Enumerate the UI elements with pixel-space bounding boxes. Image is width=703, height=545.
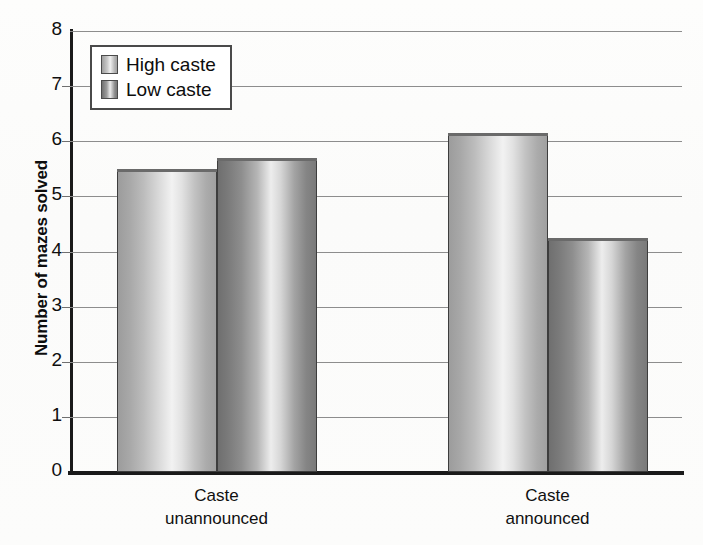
bar-top-edge [548,238,648,241]
y-axis-tick-label: 7 [26,73,62,95]
x-axis-category-label: Casteunannounced [107,484,327,530]
x-axis-category-line: Caste [438,484,658,507]
x-axis-category-line: unannounced [107,507,327,530]
gridline [70,141,682,142]
legend-label: Low caste [126,79,212,101]
bar [117,169,217,472]
bar [448,133,548,472]
y-axis-tick-label: 8 [26,18,62,40]
bar-top-edge [117,169,217,172]
x-axis-category-line: announced [438,507,658,530]
gridline [70,31,682,32]
y-axis-tick-label: 5 [26,183,62,205]
legend-swatch-high-caste-icon [101,55,118,74]
y-axis-tick-label: 6 [26,128,62,150]
legend-item: Low caste [101,77,216,102]
y-axis-tick-label: 4 [26,239,62,261]
bar-top-edge [217,158,317,161]
bar-top-edge [448,133,548,136]
x-axis-category-line: Caste [107,484,327,507]
y-axis-tick-label: 0 [26,459,62,481]
legend-item: High caste [101,52,216,77]
y-axis-tick-label: 1 [26,404,62,426]
legend-label: High caste [126,54,216,76]
y-axis-tick-label: 2 [26,349,62,371]
bar [217,158,317,472]
chart-figure: Number of mazes solved 012345678 High ca… [0,0,703,545]
y-axis-tick-label: 3 [26,294,62,316]
bar [548,238,648,472]
legend-swatch-low-caste-icon [101,80,118,99]
x-axis-category-label: Casteannounced [438,484,658,530]
legend: High caste Low caste [90,45,232,110]
